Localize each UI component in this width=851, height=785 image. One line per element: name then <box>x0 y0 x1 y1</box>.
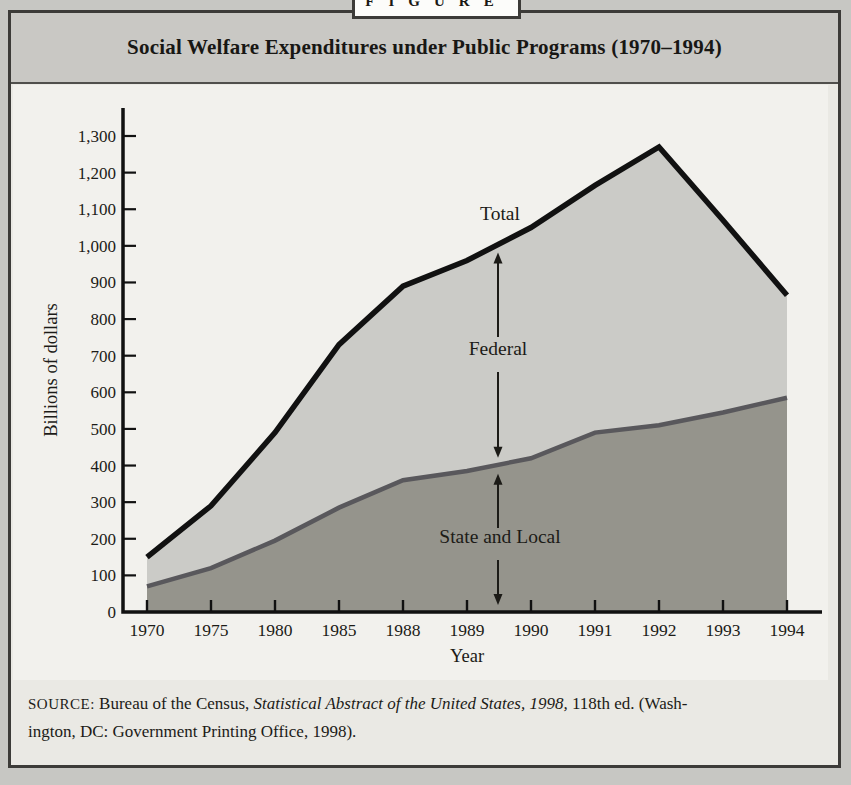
source-note: SOURCE: Bureau of the Census, Statistica… <box>28 690 828 746</box>
figure-number-label: FIGURE <box>355 0 518 9</box>
source-text-line2: ington, DC: Government Printing Office, … <box>28 722 356 741</box>
source-text-1: Bureau of the Census, <box>95 694 254 713</box>
source-text-2: 118th ed. (Wash- <box>568 694 688 713</box>
figure-title: Social Welfare Expenditures under Public… <box>127 35 722 60</box>
page-background: Social Welfare Expenditures under Public… <box>0 0 851 785</box>
figure-number-tab: FIGURE <box>352 0 521 19</box>
source-label: SOURCE: <box>28 696 95 712</box>
source-text-italic: Statistical Abstract of the United State… <box>254 694 568 713</box>
figure-title-band: Social Welfare Expenditures under Public… <box>11 13 838 84</box>
figure-box: Social Welfare Expenditures under Public… <box>8 10 841 768</box>
